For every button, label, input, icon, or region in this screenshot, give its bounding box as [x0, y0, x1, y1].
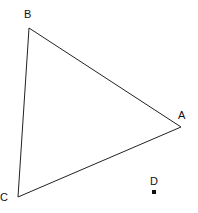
point-d-marker: [152, 190, 156, 194]
label-d: D: [150, 175, 158, 187]
triangle-abc: [18, 28, 181, 197]
label-b: B: [24, 8, 31, 20]
label-a: A: [178, 109, 186, 121]
label-c: C: [0, 191, 8, 203]
diagram-canvas: A B C D: [0, 0, 198, 213]
